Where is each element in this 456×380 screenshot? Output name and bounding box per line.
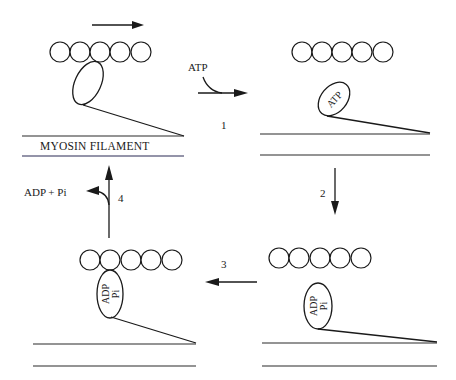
myosin-neck xyxy=(327,116,430,133)
step-2-number: 2 xyxy=(320,187,326,199)
step-1-number: 1 xyxy=(221,119,227,131)
actin-filament xyxy=(292,42,393,62)
step-3-number: 3 xyxy=(221,258,227,270)
pi-head-label: Pi xyxy=(318,302,329,311)
step-4-number: 4 xyxy=(118,192,124,204)
myosin-neck xyxy=(83,105,184,136)
panel-4: ADP Pi xyxy=(33,250,196,366)
pi-head-label: Pi xyxy=(110,290,121,299)
panel-2: ATP xyxy=(260,42,430,155)
step-4-arrow: ADP + Pi 4 xyxy=(24,165,124,238)
myosin-head xyxy=(66,57,109,110)
myosin-head-atp: ATP xyxy=(312,76,356,122)
atp-input-label: ATP xyxy=(188,61,208,73)
myosin-filament-label: MYOSIN FILAMENT xyxy=(40,140,149,152)
step-1-arrow: ATP 1 xyxy=(188,61,248,131)
actin-filament xyxy=(80,250,182,270)
step-2-arrow: 2 xyxy=(320,168,339,215)
cross-bridge-cycle-diagram: MYOSIN FILAMENT ATP 1 ATP 2 xyxy=(0,0,456,380)
myosin-neck xyxy=(111,317,196,343)
panel-1: MYOSIN FILAMENT xyxy=(22,21,184,156)
actin-filament xyxy=(50,42,151,62)
myosin-neck xyxy=(318,329,437,342)
adp-pi-output-label: ADP + Pi xyxy=(24,186,66,198)
step-3-arrow: 3 xyxy=(205,258,257,286)
myosin-head-adp-pi: ADP Pi xyxy=(97,270,123,318)
actin-filament xyxy=(269,248,371,268)
myosin-head-adp-pi: ADP Pi xyxy=(304,283,332,329)
sliding-direction-arrow xyxy=(92,21,144,29)
panel-3: ADP Pi xyxy=(262,248,437,366)
